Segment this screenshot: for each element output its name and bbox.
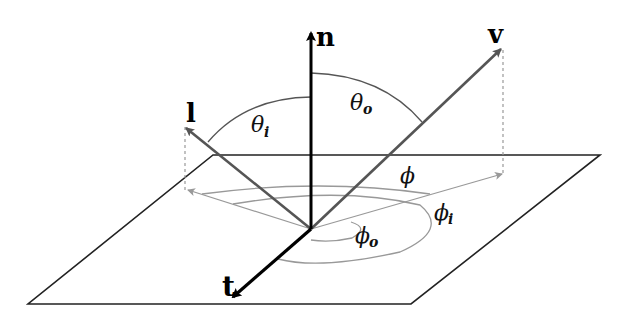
theta-i-label: θ i bbox=[251, 112, 269, 140]
phi-label: ϕ bbox=[400, 163, 415, 188]
svg-text:θ: θ bbox=[251, 112, 264, 137]
svg-text:i: i bbox=[264, 124, 269, 140]
phi-i-arc bbox=[233, 195, 431, 263]
surface-plane bbox=[28, 155, 600, 304]
light-label: l bbox=[186, 98, 196, 128]
tangent-label: t bbox=[222, 270, 235, 303]
svg-text:o: o bbox=[369, 234, 378, 250]
normal-label: n bbox=[316, 22, 335, 52]
view-label: v bbox=[487, 19, 504, 49]
svg-text:θ: θ bbox=[350, 90, 363, 115]
svg-text:i: i bbox=[448, 211, 453, 227]
phi-i-label: ϕ i bbox=[434, 200, 453, 227]
light-vector bbox=[186, 128, 311, 229]
brdf-diagram: n l v t θ i θ o ϕ ϕ i ϕ o bbox=[0, 0, 623, 318]
phi-o-label: ϕ o bbox=[355, 223, 378, 250]
svg-text:ϕ: ϕ bbox=[434, 200, 449, 225]
svg-text:ϕ: ϕ bbox=[355, 223, 370, 248]
svg-text:o: o bbox=[363, 101, 372, 117]
light-projection-vector bbox=[188, 190, 311, 229]
phi-o-arc bbox=[311, 222, 361, 241]
phi-arc bbox=[202, 186, 430, 194]
svg-text:ϕ: ϕ bbox=[400, 163, 415, 188]
theta-o-label: θ o bbox=[350, 90, 372, 117]
